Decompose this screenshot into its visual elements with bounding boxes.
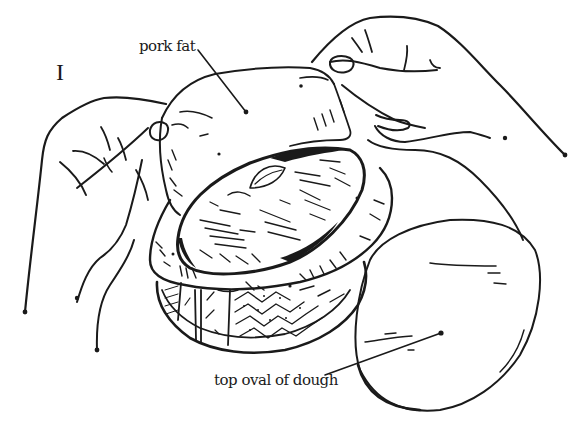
step-numeral: I xyxy=(56,60,64,84)
label-pork-fat: pork fat xyxy=(139,39,195,54)
pastry-crust-rim xyxy=(150,168,392,292)
top-dough-oval xyxy=(325,220,540,411)
decorated-oval-mold xyxy=(157,262,366,353)
illustration-canvas: I pork fat top oval of dough xyxy=(0,0,582,429)
line-drawing xyxy=(0,0,582,429)
pork-fat-sheet xyxy=(160,50,351,215)
label-top-oval-of-dough: top oval of dough xyxy=(214,373,338,388)
left-hand xyxy=(23,97,168,352)
pate-filling xyxy=(178,148,365,274)
